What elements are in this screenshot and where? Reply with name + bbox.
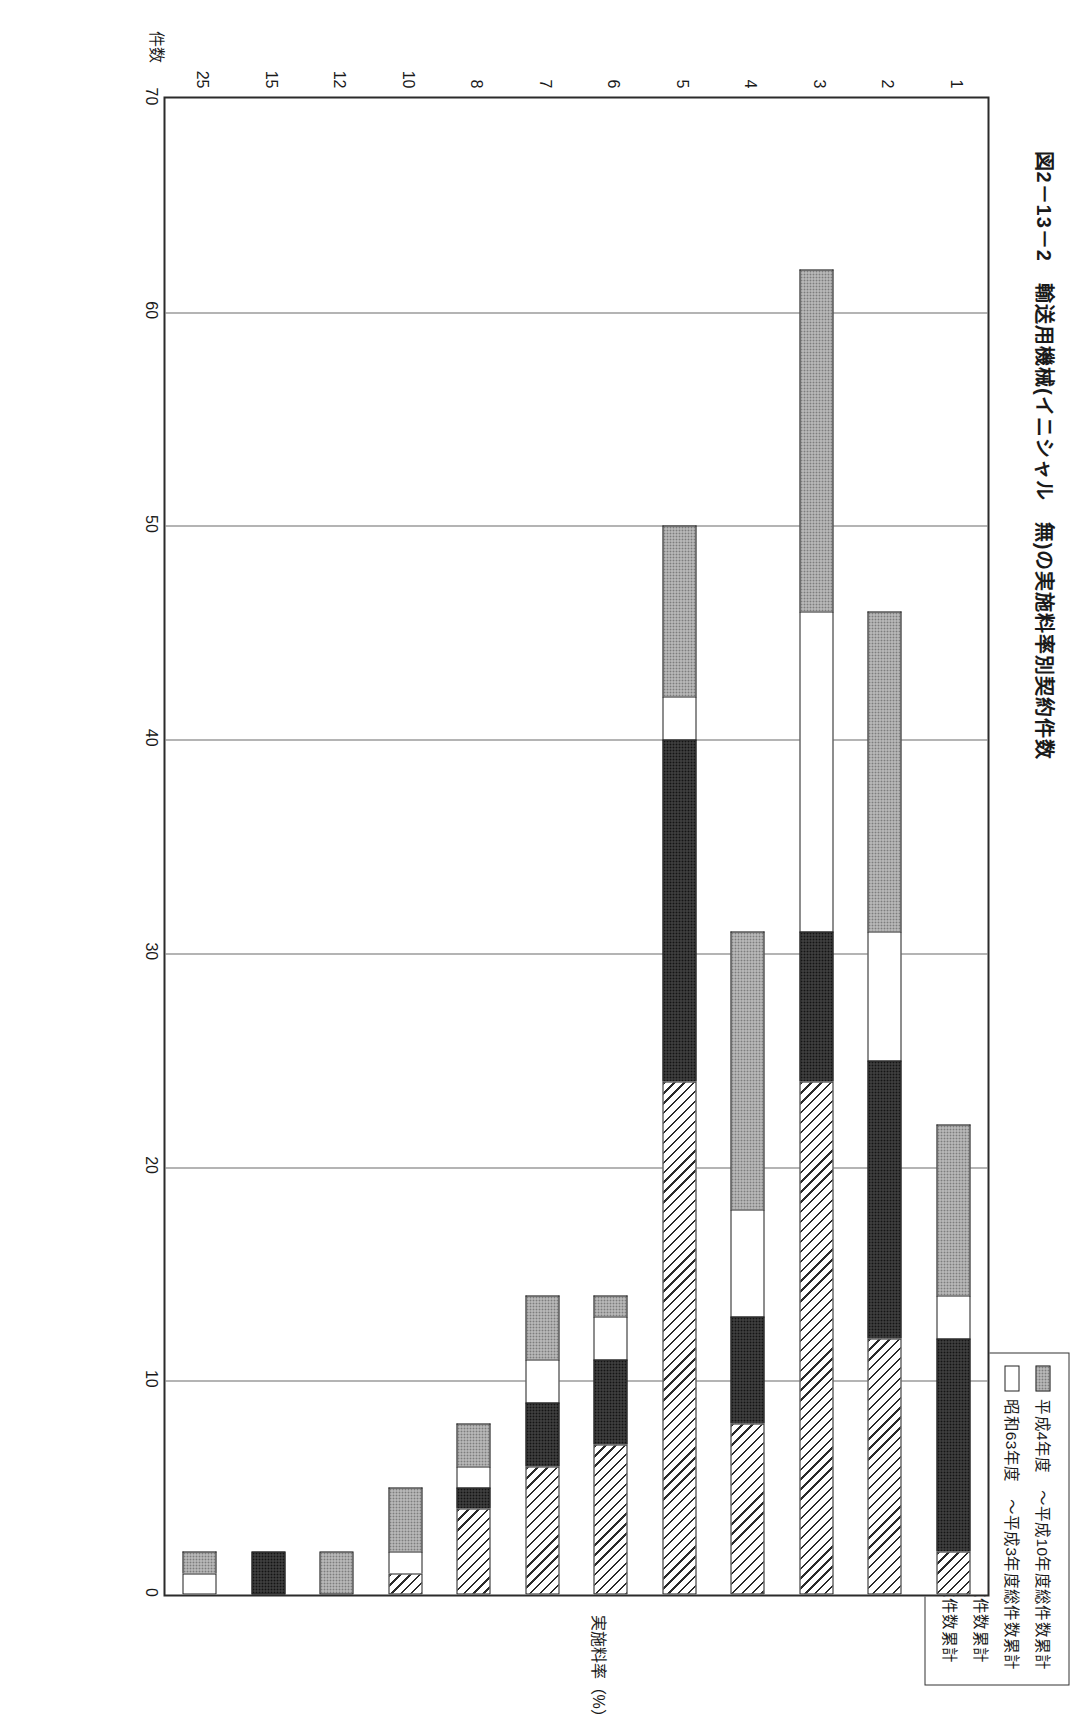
bar-segment: [593, 1316, 627, 1359]
bar-segment: [799, 1081, 833, 1594]
bar-stack: [182, 1551, 216, 1594]
chart-title: 図2－13－2 輸送用機械(イニシャル 無)の実施料率別契約件数: [1030, 150, 1059, 760]
bar-segment: [456, 1466, 490, 1487]
legend-item-label: 昭和63年度 ～平成3年度総件数累計: [1001, 1399, 1023, 1670]
legend-swatch-white-icon: [1005, 1365, 1020, 1391]
bar-segment: [730, 931, 764, 1209]
bar-segment: [593, 1444, 627, 1594]
category-axis-tick-label: 8: [466, 79, 484, 88]
bar-segment: [936, 1338, 970, 1552]
bar-segment: [388, 1551, 422, 1572]
bar-segment: [662, 525, 696, 696]
bar-segment: [388, 1573, 422, 1594]
bar-segment: [662, 696, 696, 739]
bar-segment: [388, 1487, 422, 1551]
bar-segment: [867, 611, 901, 932]
category-axis-tick-label: 4: [740, 79, 758, 88]
bar-segment: [251, 1551, 285, 1594]
category-axis-tick-label: 25: [192, 70, 210, 88]
legend-swatch-light-stipple-icon: [1036, 1365, 1051, 1391]
category-axis-tick-label: 7: [535, 79, 553, 88]
bar-stack: [867, 611, 901, 1594]
bar-segment: [662, 739, 696, 1081]
bar-stack: [456, 1423, 490, 1594]
category-axis-tick-label: 5: [672, 79, 690, 88]
bar-stack: [662, 525, 696, 1594]
value-axis-tick-label: 10: [141, 1369, 159, 1387]
bar-segment: [525, 1295, 559, 1359]
bar-stack: [730, 931, 764, 1594]
category-axis-title: 実施料率（%）: [587, 1614, 611, 1718]
category-axis-tick-label: 6: [603, 79, 621, 88]
legend-item: 昭和63年度 ～平成3年度総件数累計: [997, 1365, 1027, 1670]
bar-segment: [799, 611, 833, 932]
category-axis-tick-label: 10: [398, 70, 416, 88]
value-axis-tick-label: 20: [141, 1156, 159, 1174]
bar-segment: [662, 1081, 696, 1594]
bar-stack: [936, 1124, 970, 1594]
bar-segment: [593, 1295, 627, 1316]
bar-segment: [799, 269, 833, 611]
bar-segment: [936, 1295, 970, 1338]
value-axis-ticks: 010203040506070: [129, 96, 159, 1596]
value-axis-tick-label: 60: [141, 301, 159, 319]
bar-segment: [867, 1338, 901, 1594]
bar-segment: [867, 1060, 901, 1338]
bar-stack: [593, 1295, 627, 1594]
bar-segment: [182, 1573, 216, 1594]
bar-segment: [730, 1209, 764, 1316]
legend-item-label: 平成4年度 ～平成10年度総件数累計: [1032, 1399, 1054, 1670]
category-axis-tick-label: 2: [877, 79, 895, 88]
bar-segment: [799, 931, 833, 1081]
bar-series-container: [165, 98, 987, 1594]
category-axis-ticks: 1234567810121525: [163, 40, 989, 94]
bar-segment: [182, 1551, 216, 1572]
category-axis-tick-label: 3: [809, 79, 827, 88]
bar-segment: [936, 1124, 970, 1295]
bar-stack: [319, 1551, 353, 1594]
value-axis-tick-label: 30: [141, 942, 159, 960]
bar-segment: [456, 1423, 490, 1466]
value-axis-tick-label: 50: [141, 515, 159, 533]
legend-item: 平成4年度 ～平成10年度総件数累計: [1028, 1365, 1058, 1670]
bar-stack: [388, 1487, 422, 1594]
bar-segment: [525, 1466, 559, 1594]
bar-segment: [730, 1316, 764, 1423]
bar-segment: [730, 1423, 764, 1594]
bar-segment: [936, 1551, 970, 1594]
bar-segment: [525, 1359, 559, 1402]
value-axis-title: 件数: [146, 30, 163, 70]
bar-segment: [593, 1359, 627, 1444]
bar-segment: [319, 1551, 353, 1594]
bar-stack: [525, 1295, 559, 1594]
bar-stack: [799, 269, 833, 1594]
bar-segment: [456, 1508, 490, 1593]
category-axis-tick-label: 15: [261, 70, 279, 88]
bar-segment: [525, 1402, 559, 1466]
value-axis-tick-label: 40: [141, 728, 159, 746]
bar-segment: [867, 931, 901, 1059]
value-axis-tick-label: 0: [141, 1588, 159, 1597]
category-axis-tick-label: 1: [946, 79, 964, 88]
value-axis-tick-label: 70: [141, 87, 159, 105]
category-axis-tick-label: 12: [329, 70, 347, 88]
bar-segment: [456, 1487, 490, 1508]
plot-area: [163, 96, 989, 1596]
bar-stack: [251, 1551, 285, 1594]
